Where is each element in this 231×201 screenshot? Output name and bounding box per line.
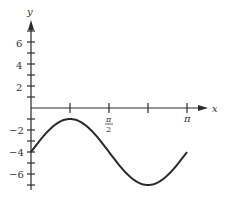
y-tick-label-neg4: −4 (9, 147, 24, 158)
chart-canvas: y x 6 4 2 −2 −4 −6 π 2 π (0, 0, 231, 201)
y-axis-label: y (26, 6, 33, 17)
y-tick-label-neg2: −2 (9, 125, 24, 136)
y-tick-label-6: 6 (16, 38, 22, 49)
x-tick-label-pi-half-den: 2 (106, 125, 111, 134)
y-tick-label-neg6: −6 (9, 169, 24, 180)
x-axis-label: x (212, 103, 218, 114)
x-tick-label-pi: π (183, 113, 191, 124)
x-tick-label-pi-half-num: π (105, 115, 112, 124)
y-tick-label-2: 2 (16, 82, 22, 93)
y-tick-label-4: 4 (16, 60, 22, 71)
